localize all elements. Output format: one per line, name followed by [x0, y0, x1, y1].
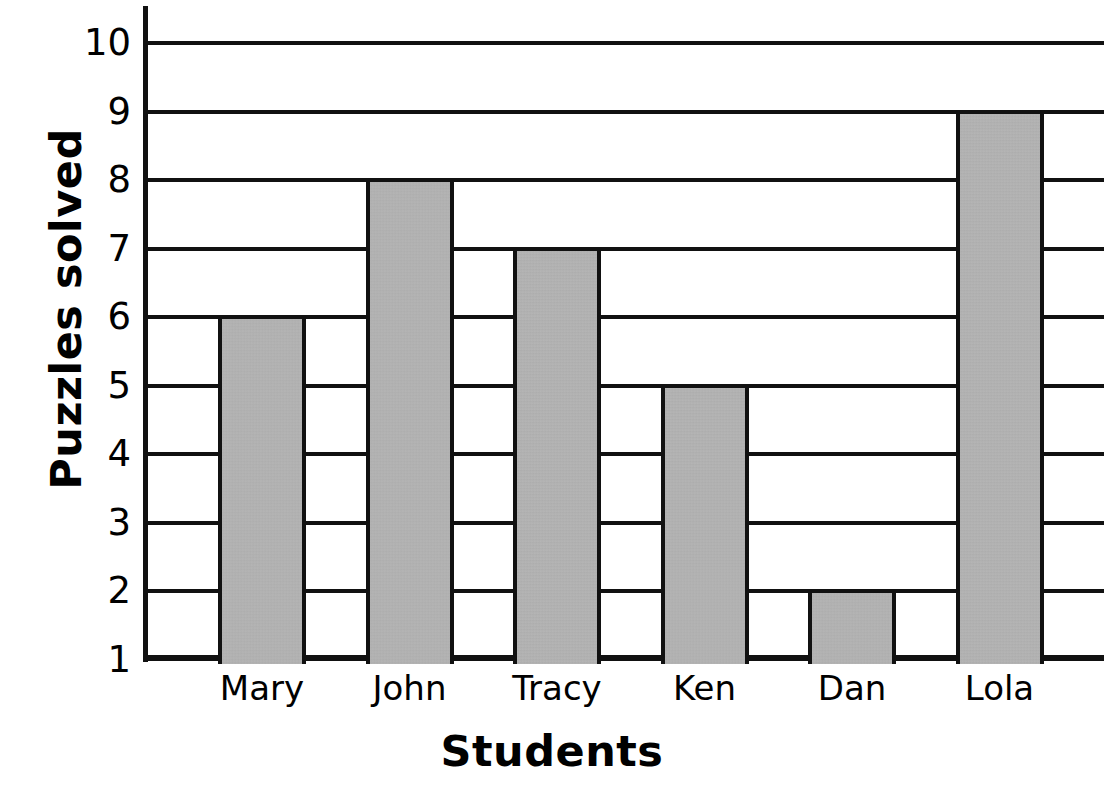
x-tick-label-lola: Lola — [910, 668, 1090, 708]
bar-tracy — [513, 247, 601, 664]
y-tick-label-4: 4 — [0, 435, 131, 472]
x-axis-title: Students — [0, 726, 1104, 776]
y-tick-label-8: 8 — [0, 161, 131, 198]
y-tick-label-6: 6 — [0, 298, 131, 335]
y-tick-label-2: 2 — [0, 572, 131, 609]
bar-chart-figure: Puzzles solved 12345678910 MaryJohnTracy… — [0, 0, 1104, 789]
y-tick-label-10: 10 — [0, 24, 131, 61]
y-tick-label-9: 9 — [0, 93, 131, 130]
plot-area — [145, 8, 1104, 660]
bar-mary — [218, 315, 306, 664]
y-tick-label-3: 3 — [0, 504, 131, 541]
bar-ken — [661, 384, 749, 664]
y-tick-label-5: 5 — [0, 367, 131, 404]
bar-lola — [956, 110, 1044, 664]
gridline-10 — [145, 41, 1104, 45]
bar-dan — [808, 589, 896, 664]
y-tick-label-1: 1 — [0, 641, 131, 678]
bar-john — [366, 178, 454, 664]
y-tick-label-7: 7 — [0, 230, 131, 267]
